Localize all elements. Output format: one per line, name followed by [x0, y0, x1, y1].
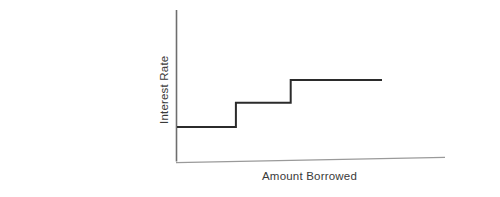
y-axis-label: Interest Rate	[159, 56, 171, 124]
x-axis-label: Amount Borrowed	[262, 171, 357, 183]
chart-plot-area	[0, 0, 500, 197]
x-axis-line	[176, 157, 445, 162]
step-chart-figure: Interest Rate Amount Borrowed	[0, 0, 500, 197]
step-series-line	[177, 80, 382, 127]
